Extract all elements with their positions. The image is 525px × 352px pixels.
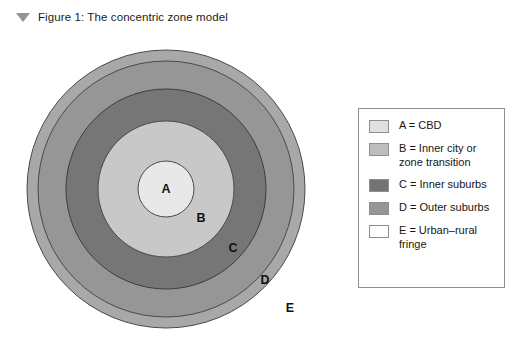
legend-swatch-D	[369, 202, 389, 215]
zone-svg: A B C D E	[0, 28, 350, 352]
zone-label-A: A	[161, 182, 170, 196]
legend-item-A: A = CBD	[369, 119, 496, 133]
legend-swatch-C	[369, 179, 389, 192]
legend-label-D: D = Outer suburbs	[399, 201, 489, 215]
legend-item-B: B = Inner city or zone transition	[369, 142, 496, 169]
concentric-zone-diagram: A B C D E	[0, 28, 350, 352]
legend-box: A = CBD B = Inner city or zone transitio…	[358, 108, 505, 288]
zone-label-C: C	[228, 241, 237, 255]
figure-caption: Figure 1: The concentric zone model	[16, 8, 228, 26]
legend-swatch-B	[369, 143, 389, 156]
legend-swatch-A	[369, 120, 389, 133]
legend-label-C: C = Inner suburbs	[399, 178, 487, 192]
zone-label-D: D	[260, 273, 269, 287]
legend-label-E: E = Urban–rural fringe	[399, 224, 477, 251]
figure-page: Figure 1: The concentric zone model A B …	[0, 0, 525, 352]
legend-swatch-E	[369, 225, 389, 238]
legend-label-A: A = CBD	[399, 119, 442, 133]
triangle-down-icon	[16, 13, 30, 22]
zone-label-E: E	[286, 301, 294, 315]
figure-caption-text: Figure 1: The concentric zone model	[38, 11, 228, 23]
legend-item-E: E = Urban–rural fringe	[369, 224, 496, 251]
legend-item-C: C = Inner suburbs	[369, 178, 496, 192]
legend-label-B: B = Inner city or zone transition	[399, 142, 476, 169]
zone-label-B: B	[196, 211, 205, 225]
legend-item-D: D = Outer suburbs	[369, 201, 496, 215]
